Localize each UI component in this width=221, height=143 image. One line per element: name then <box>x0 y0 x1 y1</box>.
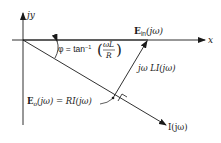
phase-angle-denominator: R <box>105 51 112 60</box>
phase-angle-paren-right: ) <box>116 41 122 59</box>
inductor-voltage-label: jω LI(jω) <box>136 63 175 73</box>
phasor-diagram: x jy I(jω) Ein(jω) jω LI(jω) Eo(jω) = RI… <box>0 0 221 143</box>
output-label-leader <box>100 99 112 104</box>
y-axis-label: jy <box>25 10 36 20</box>
phase-angle-paren-left: ( <box>97 41 103 59</box>
input-vector-label: Ein(jω) <box>134 26 164 37</box>
phase-angle-numerator: ωL <box>103 40 114 49</box>
output-vector-label: Eo(jω) = RI(jω) <box>27 96 92 107</box>
output-vector-tip <box>112 97 115 100</box>
x-axis-label: x <box>208 35 213 45</box>
phase-angle-label: φ = tan−1 <box>58 44 91 54</box>
current-label: I(jω) <box>168 122 188 132</box>
current-vector <box>23 40 166 125</box>
